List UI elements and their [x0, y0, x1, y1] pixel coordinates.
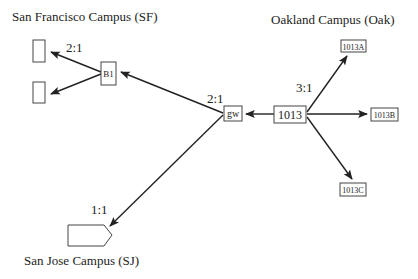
edge-1013-1013c: [307, 117, 352, 179]
oak-split-ratio: 3:1: [296, 80, 313, 95]
network-diagram: San Francisco Campus (SF) Oakland Campus…: [0, 0, 418, 279]
oak-campus-title: Oakland Campus (Oak): [271, 12, 394, 27]
edge-b1-sf-top: [51, 52, 101, 72]
edge-1013-1013a: [307, 56, 347, 112]
sj-campus-title: San Jose Campus (SJ): [24, 253, 139, 268]
sj-node[interactable]: [68, 225, 112, 246]
b1-node-label: B1: [103, 69, 114, 79]
node-1013b[interactable]: 1013B: [371, 108, 398, 121]
edge-b1-sf-bottom: [51, 74, 101, 94]
node-1013c-label: 1013C: [342, 186, 363, 195]
sf-top-node[interactable]: [33, 40, 45, 62]
sj-link-ratio: 1:1: [91, 202, 108, 217]
edges: [51, 52, 367, 226]
node-1013c[interactable]: 1013C: [340, 183, 366, 196]
sf-campus-title: San Francisco Campus (SF): [12, 9, 158, 24]
gw-node-label: gw: [227, 108, 240, 119]
sf-split-ratio: 2:1: [66, 40, 83, 55]
node-1013b-label: 1013B: [374, 111, 395, 120]
b1-node[interactable]: B1: [101, 62, 116, 85]
node-1013a[interactable]: 1013A: [341, 40, 366, 52]
node-1013[interactable]: 1013: [274, 106, 306, 123]
node-1013-label: 1013: [278, 108, 302, 122]
gw-split-ratio: 2:1: [207, 91, 224, 106]
gw-node[interactable]: gw: [224, 106, 242, 121]
node-1013a-label: 1013A: [343, 43, 365, 52]
sf-bottom-node[interactable]: [33, 82, 45, 103]
edge-gw-sj: [110, 115, 223, 226]
